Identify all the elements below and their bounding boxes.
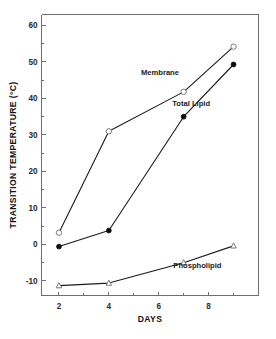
data-point (106, 228, 111, 233)
data-point (106, 129, 111, 134)
y-tick-label-50: 50 (28, 58, 38, 67)
figure-container: -100102030405060 2468 MembraneTotal Lipi… (0, 0, 276, 339)
series-label-total-lipid: Total Lipid (172, 99, 210, 108)
data-point (231, 62, 236, 67)
x-axis-title: DAYS (138, 314, 163, 324)
x-tick-label-6: 6 (156, 302, 161, 311)
series-label-membrane: Membrane (141, 68, 179, 77)
y-tick-label-40: 40 (28, 94, 38, 103)
y-tick-label-60: 60 (28, 21, 38, 30)
data-point (56, 230, 61, 235)
data-point (181, 114, 186, 119)
y-tick-label-20: 20 (28, 167, 38, 176)
y-tick-label-10: 10 (28, 204, 38, 213)
transition-temperature-line-chart: -100102030405060 2468 MembraneTotal Lipi… (0, 0, 276, 339)
y-tick-label--10: -10 (26, 277, 38, 286)
y-axis-title: TRANSITION TEMPERATURE (°C) (8, 82, 18, 229)
x-tick-label-2: 2 (57, 302, 62, 311)
x-tick-label-4: 4 (107, 302, 112, 311)
x-tick-label-8: 8 (206, 302, 211, 311)
y-tick-label-0: 0 (33, 240, 38, 249)
y-tick-label-30: 30 (28, 131, 38, 140)
series-label-phospholipid: Phospholipid (173, 261, 221, 270)
data-point (57, 244, 62, 249)
data-point (181, 89, 186, 94)
data-point (231, 44, 236, 49)
